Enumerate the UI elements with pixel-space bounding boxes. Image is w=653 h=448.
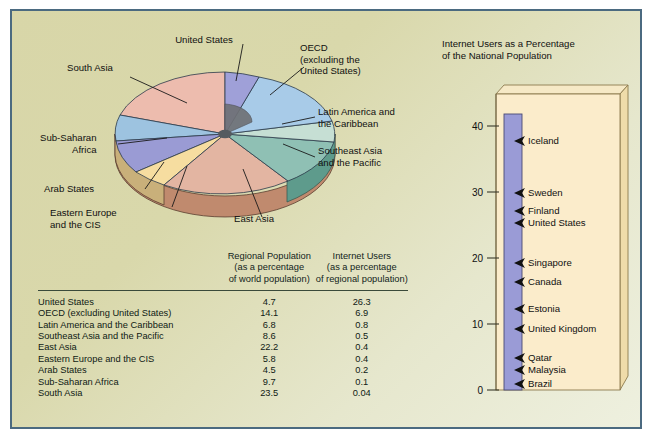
table-header-internet-users: Internet Users (as a percentage of regio… (316, 251, 409, 287)
marker-label-finland: Finland (528, 205, 559, 216)
data-table-panel: Regional Population (as a percentage of … (38, 251, 408, 423)
table-body: United States 4.7 26.3 OECD (excluding U… (38, 296, 408, 398)
cell-region: Latin America and the Caribbean (38, 319, 223, 330)
pie-label-east-asia-text: East Asia (234, 213, 274, 224)
table-row: Latin America and the Caribbean 6.8 0.8 (38, 319, 408, 330)
table-row: OECD (excluding United States) 14.1 6.9 (38, 308, 408, 319)
table-row: United States 4.7 26.3 (38, 296, 408, 307)
pie-label-oecd: OECD (excluding the United States) (300, 42, 361, 77)
pie-label-eastern-europe: Eastern Europe and the CIS (50, 207, 117, 230)
cell-regional-population: 14.1 (223, 308, 316, 319)
cell-internet-users: 0.1 (316, 376, 409, 387)
table-row: East Asia 22.2 0.4 (38, 342, 408, 353)
axis-tick-20: 20 (472, 253, 484, 264)
cell-regional-population: 6.8 (223, 319, 316, 330)
cell-internet-users: 0.4 (316, 353, 409, 364)
marker-label-qatar: Qatar (528, 352, 553, 363)
marker-label-united-kingdom: United Kingdom (528, 323, 596, 334)
table-header-row: Regional Population (as a percentage of … (38, 251, 408, 287)
figure-frame: United States OECD (excluding the United… (10, 9, 642, 429)
cell-internet-users: 0.04 (316, 387, 409, 398)
cell-region: OECD (excluding United States) (38, 308, 223, 319)
cell-regional-population: 9.7 (223, 376, 316, 387)
table-header-regional-population: Regional Population (as a percentage of … (223, 251, 316, 287)
pie-label-arab-states: Arab States (44, 183, 94, 195)
bar-chart-panel: Internet Users as a Percentage of the Na… (427, 11, 644, 427)
pie-label-latin-america: Latin America and the Caribbean (318, 106, 395, 129)
marker-label-iceland: Iceland (528, 135, 559, 146)
table-row: Southeast Asia and the Pacific 8.6 0.5 (38, 330, 408, 341)
cell-region: Eastern Europe and the CIS (38, 353, 223, 364)
cell-regional-population: 23.5 (223, 387, 316, 398)
pie-label-south-asia-text: South Asia (67, 62, 113, 73)
cell-region: Arab States (38, 364, 223, 375)
pie-chart-panel: United States OECD (excluding the United… (12, 11, 427, 251)
cell-internet-users: 0.5 (316, 330, 409, 341)
marker-label-malaysia: Malaysia (528, 364, 567, 375)
cell-region: Sub-Saharan Africa (38, 376, 223, 387)
box-right-face (620, 85, 628, 390)
cell-internet-users: 6.9 (316, 308, 409, 319)
pie-label-sub-saharan-africa: Sub-Saharan Africa (40, 132, 97, 155)
table-row: Arab States 4.5 0.2 (38, 364, 408, 375)
marker-label-estonia: Estonia (528, 303, 561, 314)
cell-internet-users: 0.2 (316, 364, 409, 375)
cell-region: East Asia (38, 342, 223, 353)
pie-label-east-asia: East Asia (234, 213, 274, 225)
header-line: of regional population) (316, 274, 409, 285)
marker-label-singapore: Singapore (528, 257, 572, 268)
header-line: Regional Population (223, 251, 316, 262)
pie-label-southeast-asia: Southeast Asia and the Pacific (318, 145, 382, 168)
header-line: (as a percentage (316, 262, 409, 273)
table-row: Sub-Saharan Africa 9.7 0.1 (38, 376, 408, 387)
cell-regional-population: 4.5 (223, 364, 316, 375)
pie-label-united-states: United States (175, 34, 233, 46)
cell-regional-population: 22.2 (223, 342, 316, 353)
header-line: Internet Users (316, 251, 409, 262)
cell-regional-population: 4.7 (223, 296, 316, 307)
axis-tick-30: 30 (472, 187, 484, 198)
box-top-face (496, 85, 628, 94)
axis-tick-40: 40 (472, 121, 484, 132)
marker-label-sweden: Sweden (528, 187, 563, 198)
cell-region: South Asia (38, 387, 223, 398)
cell-internet-users: 26.3 (316, 296, 409, 307)
cell-region: United States (38, 296, 223, 307)
table-header-region (38, 251, 223, 287)
data-table: Regional Population (as a percentage of … (38, 251, 408, 399)
marker-label-canada: Canada (528, 276, 562, 287)
cell-internet-users: 0.8 (316, 319, 409, 330)
cell-regional-population: 5.8 (223, 353, 316, 364)
marker-label-united-states: United States (528, 217, 586, 228)
axis-tick-10: 10 (472, 319, 484, 330)
pie-label-united-states-text: United States (175, 34, 233, 45)
pie-label-arab-states-text: Arab States (44, 183, 94, 194)
cell-internet-users: 0.4 (316, 342, 409, 353)
table-row: South Asia 23.5 0.04 (38, 387, 408, 398)
cell-region: Southeast Asia and the Pacific (38, 330, 223, 341)
header-line: of world population) (223, 274, 316, 285)
bar-chart-svg: 40 30 20 10 0 Iceland Sweden (427, 11, 644, 427)
bar-chart-axis-ticks: 40 30 20 10 0 (472, 121, 499, 396)
pie-label-south-asia: South Asia (67, 62, 113, 74)
header-line: (as a percentage (223, 262, 316, 273)
table-row: Eastern Europe and the CIS 5.8 0.4 (38, 353, 408, 364)
marker-label-brazil: Brazil (528, 378, 552, 389)
bar-column (504, 114, 522, 390)
cell-regional-population: 8.6 (223, 330, 316, 341)
axis-tick-0: 0 (477, 385, 483, 396)
bar-column-rect (504, 114, 522, 390)
